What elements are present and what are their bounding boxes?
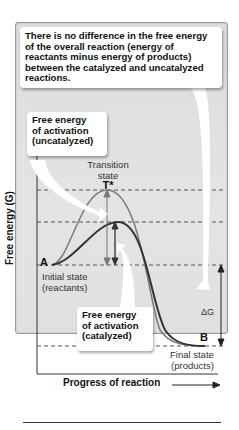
point-a-label: A [40,257,48,268]
initial-state-label: Initial state (reactants) [42,272,87,293]
catalyzed-activation-callout: Free energy of activation (catalyzed) [77,307,153,351]
overall-callout-pointer [190,88,210,290]
delta-g-arrow [218,265,224,346]
delta-g-label: ΔG [201,307,214,318]
uncatalyzed-activation-arrow [104,190,110,265]
final-state-label: Final state (products) [170,350,214,371]
t-star-label: T* [96,180,120,191]
y-axis-label: Free energy (G) [4,191,15,265]
x-axis-arrow [172,382,220,388]
catalyzed-callout-pointer [117,243,135,310]
bottom-rule [23,422,221,423]
x-axis-label: Progress of reaction [63,377,160,388]
uncatalyzed-activation-callout: Free energy of activation (uncatalyzed) [27,112,107,156]
point-b-label: B [200,332,208,343]
transition-state-label: Transition state [82,160,134,181]
overall-reaction-callout: There is no difference in the free energ… [20,27,222,88]
